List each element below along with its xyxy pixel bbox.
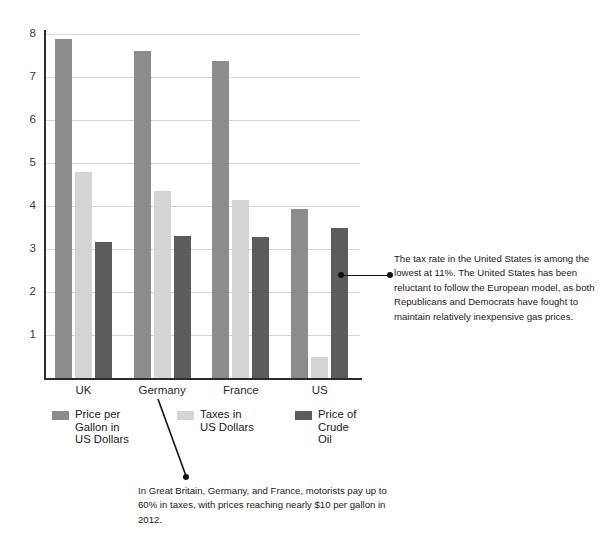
- legend-swatch-price-per-gallon: [52, 411, 69, 420]
- bar-germany-series1: [134, 51, 151, 378]
- annotation-us-tax-rate: The tax rate in the United States is amo…: [394, 252, 602, 324]
- legend-swatch-crude-oil: [295, 411, 312, 420]
- bar-france-series1: [212, 61, 229, 378]
- bar-us-series2: [311, 357, 328, 379]
- x-axis-line: [44, 378, 362, 380]
- bar-groups: [44, 30, 362, 378]
- x-axis-label-germany: Germany: [117, 384, 207, 396]
- y-tick-label-7: 7: [10, 71, 36, 82]
- bar-group-france: [212, 30, 269, 378]
- y-tick-label-1: 1: [10, 329, 36, 340]
- x-axis-label-us: US: [275, 384, 365, 396]
- bar-france-series2: [232, 200, 249, 378]
- chart-page: 12345678 UKGermanyFranceUS Price per Gal…: [0, 0, 608, 538]
- x-axis-label-france: France: [196, 384, 286, 396]
- y-tick-label-5: 5: [10, 157, 36, 168]
- legend-label-crude-oil: Price of Crude Oil: [318, 408, 362, 446]
- legend-label-taxes: Taxes in US Dollars: [200, 408, 254, 433]
- bar-group-uk: [55, 30, 112, 378]
- bar-germany-series2: [154, 191, 171, 378]
- bar-france-series3: [252, 237, 269, 378]
- y-tick-label-6: 6: [10, 114, 36, 125]
- legend-label-price-per-gallon: Price per Gallon in US Dollars: [75, 408, 129, 446]
- bar-uk-series1: [55, 39, 72, 378]
- bar-uk-series2: [75, 172, 92, 378]
- bar-us-series3: [331, 228, 348, 379]
- y-tick-label-4: 4: [10, 200, 36, 211]
- bar-uk-series3: [95, 242, 112, 378]
- legend-item-crude-oil: Price of Crude Oil: [295, 408, 362, 446]
- annotation-europe-taxes: In Great Britain, Germany, and France, m…: [138, 484, 408, 527]
- legend-swatch-taxes: [177, 411, 194, 420]
- y-tick-label-8: 8: [10, 28, 36, 39]
- plot-area: 12345678 UKGermanyFranceUS: [0, 0, 370, 405]
- chart-legend: Price per Gallon in US Dollars Taxes in …: [52, 408, 362, 456]
- legend-item-price-per-gallon: Price per Gallon in US Dollars: [52, 408, 129, 446]
- y-tick-label-3: 3: [10, 243, 36, 254]
- y-tick-label-2: 2: [10, 286, 36, 297]
- bar-group-us: [291, 30, 348, 378]
- x-axis-label-uk: UK: [38, 384, 128, 396]
- bar-group-germany: [134, 30, 191, 378]
- leader-line-us: [342, 275, 390, 277]
- leader-dot-us-end: [387, 272, 393, 278]
- bar-us-series1: [291, 209, 308, 378]
- bar-germany-series3: [174, 236, 191, 378]
- leader-dot-germany: [183, 474, 189, 480]
- legend-item-taxes: Taxes in US Dollars: [177, 408, 254, 433]
